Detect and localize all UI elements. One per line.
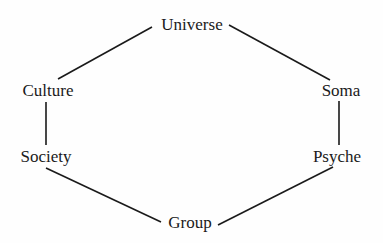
node-culture: Culture: [23, 82, 74, 99]
edge-society-group: [46, 168, 161, 222]
diagram-edges: [0, 0, 383, 243]
node-society: Society: [21, 148, 72, 165]
node-universe: Universe: [161, 16, 222, 33]
node-psyche: Psyche: [313, 148, 361, 165]
edge-universe-soma: [229, 25, 330, 80]
hexagon-diagram: Universe Soma Psyche Group Society Cultu…: [0, 0, 383, 243]
node-group: Group: [168, 214, 211, 231]
edge-psyche-group: [218, 167, 333, 225]
edge-universe-culture: [58, 27, 152, 79]
node-soma: Soma: [322, 82, 361, 99]
